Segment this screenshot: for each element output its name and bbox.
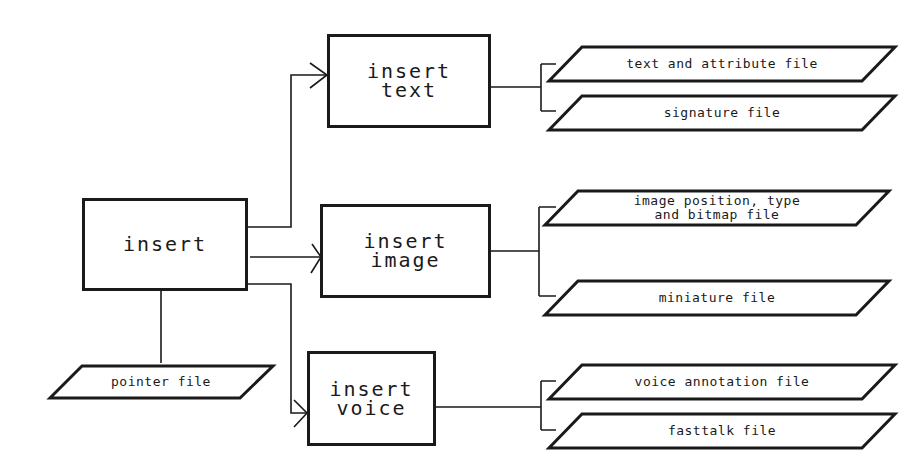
process-insert-image-line2: image [370,251,440,270]
process-insert-label: insert [123,235,207,254]
file-text-attribute: text and attribute file [566,47,878,81]
file-miniature-label: miniature file [659,291,776,305]
file-fasttalk: fasttalk file [566,414,878,448]
process-insert-voice-line2: voice [336,399,406,418]
process-insert-text-line2: text [381,81,437,100]
process-insert-text: insert text [327,34,491,128]
file-fasttalk-label: fasttalk file [668,424,776,438]
file-signature-label: signature file [664,106,781,120]
edge-text-branch [490,64,556,111]
file-image-position-line1: image position, type [634,194,801,208]
file-pointer-label: pointer file [111,375,211,389]
edge-image-branch [490,207,556,296]
file-pointer: pointer file [66,366,256,398]
file-text-attribute-label: text and attribute file [626,57,818,71]
file-voice-annotation: voice annotation file [566,365,878,399]
process-insert-voice: insert voice [307,351,436,446]
file-image-position: image position, type and bitmap file [562,191,872,225]
file-voice-annotation-label: voice annotation file [635,375,810,389]
edge-insert-to-voice [247,284,307,413]
file-image-position-line2: and bitmap file [655,208,780,222]
process-insert: insert [82,198,248,291]
file-miniature: miniature file [562,281,872,315]
file-signature: signature file [566,96,878,130]
edge-voice-branch [435,381,556,430]
edge-insert-to-text [247,75,327,227]
process-insert-image: insert image [320,204,491,298]
